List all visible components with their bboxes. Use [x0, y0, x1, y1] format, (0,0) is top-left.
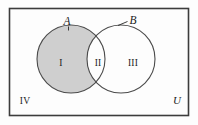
set-a-label: A [62, 15, 71, 27]
region-label-IV: IV [20, 96, 30, 106]
set-b-label: B [129, 14, 136, 26]
venn-diagram-canvas: A B I II III IV U [0, 0, 198, 125]
region-label-I: I [59, 58, 62, 68]
universal-set-label: U [173, 94, 182, 106]
region-label-II: II [95, 58, 102, 68]
region-label-III: III [128, 58, 138, 68]
venn-diagram-figure: A B I II III IV U [0, 0, 198, 125]
